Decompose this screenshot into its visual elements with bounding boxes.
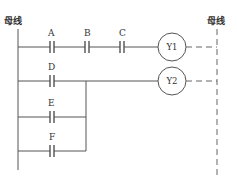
contact-f-label: F: [49, 132, 55, 142]
contact-b: B: [84, 28, 91, 53]
coil-y1: Y1: [158, 33, 186, 61]
coil-y2-label: Y2: [165, 76, 177, 86]
contact-a-label: A: [47, 28, 55, 38]
contact-c-label: C: [119, 28, 126, 38]
contact-f: F: [49, 132, 55, 157]
contact-a: A: [47, 28, 55, 53]
coil-y1-label: Y1: [165, 42, 177, 52]
contact-c: C: [119, 28, 126, 53]
rung-2: D E F Y2: [18, 62, 217, 157]
right-bus-label: 母线: [207, 15, 225, 26]
contact-b-label: B: [84, 28, 91, 38]
contact-d-label: D: [48, 62, 55, 72]
contact-d: D: [48, 62, 55, 87]
coil-y2: Y2: [158, 67, 186, 95]
left-bus-label: 母线: [4, 15, 22, 26]
contact-e: E: [48, 98, 55, 123]
ladder-diagram: 母线 母线 A B C Y1: [0, 0, 237, 179]
rung-1: A B C Y1: [18, 28, 217, 61]
contact-e-label: E: [48, 98, 55, 108]
